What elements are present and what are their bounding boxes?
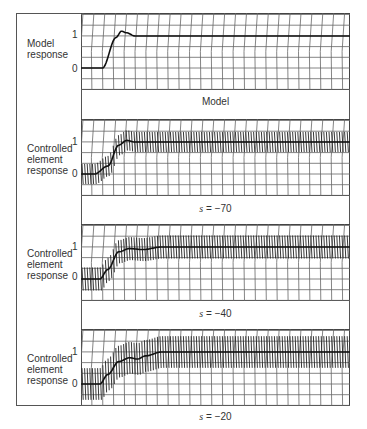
chart-svg (81, 13, 350, 90)
chart-svg (81, 224, 350, 301)
label-line: Model (27, 38, 68, 49)
tick-1: 1 (72, 241, 78, 252)
y-axis-label: Controlled element response (27, 143, 73, 176)
label-line: Controlled (27, 248, 73, 259)
chart-svg (81, 329, 350, 406)
tick-1: 1 (72, 29, 78, 40)
y-axis-label: Controlled element response (27, 248, 73, 281)
plot-area-model (81, 13, 350, 90)
tick-0: 0 (72, 271, 78, 282)
separator (81, 90, 351, 119)
label-line: element (27, 364, 73, 375)
label-line: response (27, 49, 68, 60)
label-line: response (27, 375, 73, 386)
chart-svg (81, 119, 350, 196)
tick-0: 0 (72, 63, 78, 74)
plot-area-s-40 (81, 224, 350, 301)
y-axis-label: Model response (27, 38, 68, 60)
tick-0: 0 (72, 168, 78, 179)
caption-text: = −20 (203, 411, 231, 422)
label-line: response (27, 165, 73, 176)
caption-s-20: s = −20 (81, 411, 350, 422)
tick-0: 0 (72, 378, 78, 389)
y-axis-label: Controlled element response (27, 353, 73, 386)
separator (81, 301, 351, 329)
label-line: element (27, 154, 73, 165)
tick-1: 1 (72, 136, 78, 147)
plot-area-s-70 (81, 119, 350, 196)
label-line: Controlled (27, 143, 73, 154)
label-line: element (27, 259, 73, 270)
label-line: response (27, 270, 73, 281)
tick-1: 1 (72, 346, 78, 357)
plot-area-s-20 (81, 329, 350, 406)
separator (81, 196, 351, 224)
label-line: Controlled (27, 353, 73, 364)
